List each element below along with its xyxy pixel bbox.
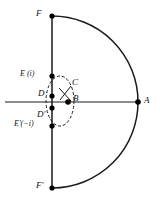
label-point-E-upper: E (i) <box>20 70 34 78</box>
point-marker-E <box>49 73 54 78</box>
point-marker-B <box>65 99 71 105</box>
label-point-A: A <box>144 96 150 105</box>
point-marker-Ep <box>49 123 54 128</box>
point-marker-Fp <box>49 185 54 190</box>
label-point-E-lower: E'(−i) <box>14 120 34 128</box>
point-marker-Dp <box>49 105 54 110</box>
figure-canvas <box>0 0 160 204</box>
point-marker-F <box>49 13 54 18</box>
label-point-C: C <box>72 78 78 87</box>
cross-stroke-b <box>60 86 71 100</box>
label-point-D-lower: D' <box>37 110 45 119</box>
point-marker-A <box>135 99 141 105</box>
point-marker-D <box>49 93 54 98</box>
label-point-F-bottom: F' <box>36 181 43 190</box>
label-point-B: B <box>73 94 79 103</box>
geometric-figure: F E (i) D D' E'(−i) F' B C A <box>0 0 160 204</box>
label-point-D-upper: D <box>38 89 45 98</box>
label-point-F-top: F <box>36 9 42 18</box>
